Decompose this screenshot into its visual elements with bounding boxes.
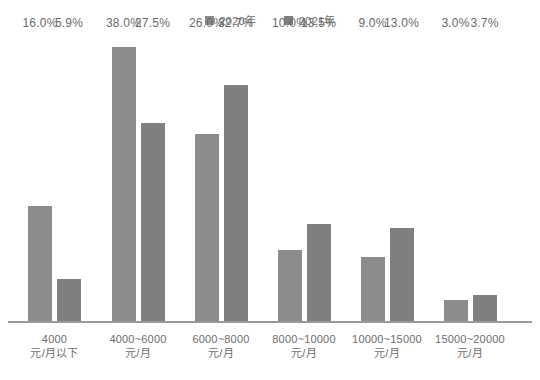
bar-item[interactable]: 13.0%: [390, 34, 414, 322]
bar-rect[interactable]: [473, 295, 497, 322]
bar-item[interactable]: 27.5%: [141, 34, 165, 322]
x-axis-tick-labels: 4000元/月以下4000~6000元/月6000~8000元/月8000~10…: [0, 332, 540, 376]
x-axis-tick-label: 15000~20000元/月: [415, 332, 525, 360]
bar-item[interactable]: 9.0%: [361, 34, 385, 322]
bar-rect[interactable]: [307, 224, 331, 322]
bar-value-label: 3.7%: [470, 16, 498, 30]
bar-rect[interactable]: [361, 257, 385, 322]
bar-rect[interactable]: [444, 300, 468, 322]
x-axis-tick-label-line: 15000~20000: [415, 332, 525, 346]
bar-group: 38.0%27.5%: [112, 34, 165, 322]
bar-item[interactable]: 26.0%: [195, 34, 219, 322]
bar-rect[interactable]: [195, 134, 219, 322]
bar-group: 10.0%13.5%: [278, 34, 331, 322]
bar-value-label: 16.0%: [22, 16, 57, 30]
bar-item[interactable]: 3.7%: [473, 34, 497, 322]
bar-rect[interactable]: [224, 85, 248, 322]
bar-group: 3.0%3.7%: [444, 34, 497, 322]
bar-item[interactable]: 5.9%: [57, 34, 81, 322]
bar-item[interactable]: 3.0%: [444, 34, 468, 322]
bar-rect[interactable]: [28, 206, 52, 322]
bar-item[interactable]: 13.5%: [307, 34, 331, 322]
bar-value-label: 9.0%: [358, 16, 386, 30]
bar-value-label: 32.7%: [218, 16, 253, 30]
bar-rect[interactable]: [390, 228, 414, 322]
bar-group: 9.0%13.0%: [361, 34, 414, 322]
bar-value-label: 3.0%: [441, 16, 469, 30]
bar-rect[interactable]: [278, 250, 302, 322]
bar-chart: 2020年 2021年 16.0%5.9%38.0%27.5%26.0%32.7…: [0, 0, 540, 380]
bar-rect[interactable]: [112, 47, 136, 322]
bar-rect[interactable]: [141, 123, 165, 322]
bar-value-label: 13.0%: [384, 16, 419, 30]
bar-item[interactable]: 38.0%: [112, 34, 136, 322]
x-axis-line: [8, 321, 532, 323]
bar-rect[interactable]: [57, 279, 81, 322]
bar-item[interactable]: 16.0%: [28, 34, 52, 322]
bar-value-label: 13.5%: [301, 16, 336, 30]
bar-value-label: 5.9%: [55, 16, 83, 30]
x-axis-tick-label-line: 元/月: [415, 346, 525, 360]
bar-group: 26.0%32.7%: [195, 34, 248, 322]
bar-value-label: 27.5%: [135, 16, 170, 30]
plot-area: 16.0%5.9%38.0%27.5%26.0%32.7%10.0%13.5%9…: [8, 34, 532, 322]
bar-item[interactable]: 32.7%: [224, 34, 248, 322]
bar-item[interactable]: 10.0%: [278, 34, 302, 322]
bar-group: 16.0%5.9%: [28, 34, 81, 322]
